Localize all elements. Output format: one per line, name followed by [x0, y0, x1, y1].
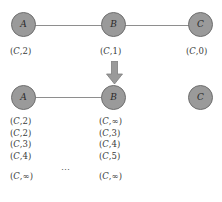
entry-suffix: ) — [117, 151, 120, 161]
caption-node-a-before: (C,2) — [10, 47, 31, 56]
update-entry: (C,5) — [99, 152, 122, 161]
node-c-before: C — [188, 12, 213, 37]
node-b-before-label: B — [110, 20, 117, 29]
entry-suffix: ) — [119, 171, 122, 181]
update-entry-final: (C,∞) — [10, 172, 33, 181]
update-column-b: (C,∞) (C,3) (C,4) (C,5) (C,∞) — [99, 117, 122, 181]
node-a-before-label: A — [20, 20, 27, 29]
entry-cost: ∞ — [112, 116, 119, 126]
entry-suffix: ) — [28, 128, 31, 138]
node-b-after: B — [101, 85, 126, 110]
update-entry: (C,2) — [10, 129, 33, 138]
node-c-after: C — [188, 85, 213, 110]
down-arrow-icon — [106, 61, 123, 85]
update-column-a: (C,2) (C,2) (C,3) (C,4) (C,∞) — [10, 117, 33, 181]
node-b-after-label: B — [110, 93, 117, 102]
node-a-before: A — [11, 12, 36, 37]
entry-suffix: ) — [28, 151, 31, 161]
entry-suffix: ) — [30, 171, 33, 181]
figure-root: A B C (C,2) (C,1) (C,0) A B C (C,2) (C,2… — [0, 0, 222, 202]
caption-b-suffix: ) — [118, 46, 121, 56]
update-entry: (C,3) — [99, 129, 122, 138]
caption-a-suffix: ) — [28, 46, 31, 56]
node-b-before: B — [101, 12, 126, 37]
entry-cost: ∞ — [112, 171, 119, 181]
update-entry: (C,3) — [10, 140, 33, 149]
caption-c-suffix: ) — [204, 46, 207, 56]
entry-suffix: ) — [28, 116, 31, 126]
node-a-after: A — [11, 85, 36, 110]
caption-node-b-before: (C,1) — [100, 47, 121, 56]
node-a-after-label: A — [20, 93, 27, 102]
node-c-before-label: C — [197, 20, 204, 29]
caption-node-c-before: (C,0) — [186, 47, 207, 56]
update-entry: (C,4) — [10, 152, 33, 161]
update-entry-final: (C,∞) — [99, 172, 122, 181]
node-c-after-label: C — [197, 93, 204, 102]
entry-suffix: ) — [119, 116, 122, 126]
entry-cost: ∞ — [23, 171, 30, 181]
column-spacer — [10, 163, 33, 169]
update-entry: (C,4) — [99, 140, 122, 149]
update-entry: (C,2) — [10, 117, 33, 126]
entry-suffix: ) — [117, 128, 120, 138]
column-spacer — [99, 163, 122, 169]
update-entry: (C,∞) — [99, 117, 122, 126]
entry-suffix: ) — [117, 139, 120, 149]
entry-suffix: ) — [28, 139, 31, 149]
edge-b-c-before — [125, 25, 189, 26]
ellipsis-indicator: ⋯ — [61, 166, 71, 175]
